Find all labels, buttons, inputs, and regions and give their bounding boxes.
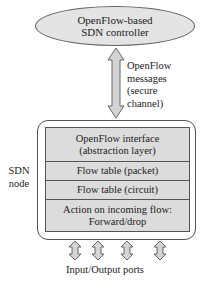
input-output-ports-label: Input/Output ports [0,264,210,275]
port-arrow-icon [69,241,166,260]
port-arrows [0,0,210,287]
